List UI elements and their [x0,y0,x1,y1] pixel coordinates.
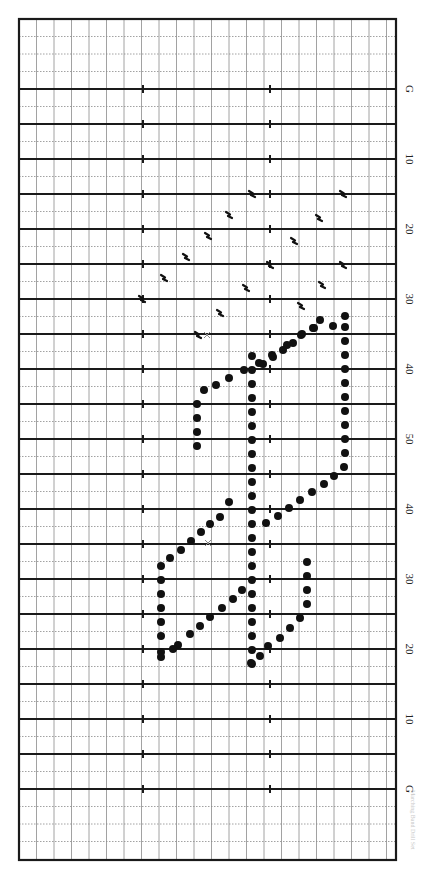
step-marker-icon [291,238,297,244]
performer-dot [296,614,304,622]
performer-dot [248,450,256,458]
performer-dot [187,537,195,545]
performer-dot [248,506,256,514]
performer-dot [256,652,264,660]
performer-dot [269,353,277,361]
step-marker-icon [183,254,189,260]
performer-dot [157,618,165,626]
performer-dot [341,393,349,401]
performer-dot [196,622,204,630]
performer-dot [289,339,297,347]
performer-dot [285,504,293,512]
performer-dot [274,512,282,520]
performer-dot [303,586,311,594]
performer-dot [298,330,306,338]
performer-dot [248,492,256,500]
performer-dot [193,442,201,450]
performer-dot [212,381,220,389]
step-marker-icon [226,212,232,218]
performer-dot [157,562,165,570]
yard-label: G [404,79,416,99]
performer-dot [157,590,165,598]
performer-dot [157,653,165,661]
yard-label: 20 [404,219,416,239]
performer-dot [193,428,201,436]
yard-label: 50 [404,429,416,449]
performer-dot [248,394,256,402]
performer-dot [341,379,349,387]
yard-label: 10 [404,709,416,729]
performer-dot [225,374,233,382]
performer-dot [310,324,318,332]
performer-dot [248,436,256,444]
yard-label: 10 [404,149,416,169]
performer-dot [216,513,224,521]
performer-dot [341,323,349,331]
performer-dot [240,366,248,374]
footer-text: Marching Band Drill Set [410,790,416,850]
performer-dot [169,645,177,653]
performer-dot [157,576,165,584]
performer-dot [200,386,208,394]
yard-lines [19,89,396,789]
performer-dot [340,463,348,471]
performer-dot [303,572,311,580]
performer-dot [330,472,338,480]
performer-dot [248,604,256,612]
performer-dot [248,576,256,584]
performer-dot [264,642,272,650]
performer-dot [206,613,214,621]
performer-dot [229,595,237,603]
performer-dot [329,322,337,330]
yard-label: 30 [404,569,416,589]
performer-dot [341,449,349,457]
performer-dot [248,632,256,640]
performer-dot [248,590,256,598]
performer-dot [303,558,311,566]
yard-label: 40 [404,359,416,379]
performer-dot [341,365,349,373]
performer-dot [157,604,165,612]
performer-dot [303,600,311,608]
performer-dot [186,630,194,638]
performer-dot [157,632,165,640]
performer-dot [248,520,256,528]
performer-dot [248,478,256,486]
performer-dot [248,562,256,570]
yard-label: 20 [404,639,416,659]
performer-dot [276,634,284,642]
yard-label: 30 [404,289,416,309]
performer-dot [341,407,349,415]
performer-dot [341,435,349,443]
performer-dot [197,528,205,536]
performer-dot [238,586,246,594]
performer-dot [193,400,201,408]
performer-dot [286,624,294,632]
performer-dot [341,421,349,429]
performer-dot [248,534,256,542]
step-marker-icon [161,275,167,281]
performer-dot [247,659,255,667]
performer-dot [248,408,256,416]
performer-dot [177,546,185,554]
step-marker-icon [205,233,211,239]
performer-dot [341,351,349,359]
step-marker-icon [243,285,249,291]
football-field-grid [0,0,430,878]
performer-dot [206,520,214,528]
yard-label: 40 [404,499,416,519]
performer-dot [248,618,256,626]
performer-dot [320,480,328,488]
performer-dot [341,337,349,345]
performer-dot [248,422,256,430]
performer-dot [193,414,201,422]
performer-dot [248,352,256,360]
performer-dot [248,548,256,556]
performer-dot [308,488,316,496]
performer-dot [225,498,233,506]
performer-dot [166,554,174,562]
step-marker-icon [319,282,325,288]
performer-dot [248,646,256,654]
performer-dot [218,604,226,612]
performer-dot [259,360,267,368]
